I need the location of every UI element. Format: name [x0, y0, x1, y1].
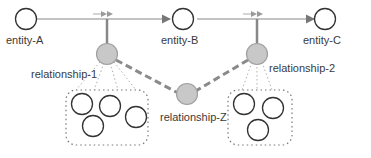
relationship-Z-label: relationship-Z: [160, 111, 227, 123]
flow-chevrons-icon: [93, 11, 113, 17]
entity-A-node[interactable]: [16, 9, 37, 30]
edge-relationship-1-to-relationship-Z: [116, 60, 180, 94]
group-member: [83, 116, 104, 137]
entity-A-label: entity-A: [6, 34, 43, 46]
flow-chevrons-icon: [243, 11, 263, 17]
entity-C-label: entity-C: [303, 34, 341, 46]
entity-C-node[interactable]: [315, 9, 336, 30]
relationship-2-node[interactable]: [247, 44, 268, 65]
group-member: [72, 94, 93, 115]
relationship-2-label: relationship-2: [269, 62, 335, 74]
group-member: [126, 107, 147, 128]
group-member: [263, 98, 284, 119]
entity-B-node[interactable]: [173, 9, 194, 30]
group-member: [234, 94, 255, 115]
group-member: [100, 96, 121, 117]
edge-relationship-2-to-relationship-Z: [194, 60, 248, 92]
relationship-Z-node[interactable]: [177, 84, 198, 105]
relationship-1-label: relationship-1: [31, 68, 97, 80]
group-member: [248, 120, 269, 141]
entity-B-label: entity-B: [161, 34, 198, 46]
relationship-1-node[interactable]: [97, 44, 118, 65]
